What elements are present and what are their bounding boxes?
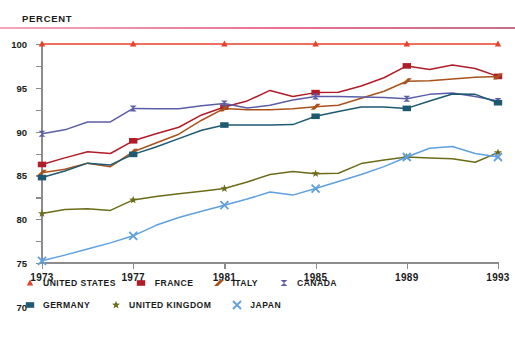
legend-label: UNITED KINGDOM xyxy=(129,300,211,310)
legend-label: GERMANY xyxy=(43,300,90,310)
y-tick-label: 75 xyxy=(16,258,27,269)
legend-item-germany[interactable]: GERMANY xyxy=(22,299,90,311)
chart-legend: UNITED STATESFRANCEITALYCANADA GERMANYUN… xyxy=(22,272,492,316)
legend-label: CANADA xyxy=(297,278,337,288)
plot-area: 50556065707580859095100 1973197719811985… xyxy=(42,44,498,263)
x-tick-mark xyxy=(133,263,134,269)
cross-marker-icon xyxy=(229,299,244,311)
legend-label: JAPAN xyxy=(250,300,281,310)
x-tick-mark xyxy=(498,263,499,269)
x-tick-mark xyxy=(42,263,43,269)
series-lines xyxy=(42,44,498,263)
series-united-states xyxy=(39,41,501,47)
star-marker-icon xyxy=(108,299,123,311)
legend-item-united-kingdom[interactable]: UNITED KINGDOM xyxy=(108,299,211,311)
arrow-marker-icon xyxy=(211,277,226,289)
chart-page: PERCENT 50556065707580859095100 19731977… xyxy=(0,0,515,341)
bowtie-marker-icon xyxy=(276,277,291,289)
legend-row-primary: UNITED STATESFRANCEITALYCANADA xyxy=(22,272,492,294)
axis-title-percent: PERCENT xyxy=(22,13,72,24)
x-tick-mark xyxy=(224,263,225,269)
legend-row-secondary: GERMANYUNITED KINGDOMJAPAN xyxy=(22,294,492,316)
x-tick-mark xyxy=(316,263,317,269)
legend-item-canada[interactable]: CANADA xyxy=(276,277,337,289)
y-tick-label: 100 xyxy=(11,39,27,50)
y-tick-label: 95 xyxy=(16,82,27,93)
top-divider-rule xyxy=(0,27,515,29)
series-united-kingdom xyxy=(38,148,502,216)
series-france xyxy=(38,63,502,167)
series-germany xyxy=(38,94,502,180)
y-tick-label: 85 xyxy=(16,170,27,181)
square-marker-icon xyxy=(22,299,37,311)
x-tick-mark xyxy=(407,263,408,269)
legend-item-japan[interactable]: JAPAN xyxy=(229,299,281,311)
legend-label: UNITED STATES xyxy=(43,278,116,288)
legend-label: FRANCE xyxy=(155,278,194,288)
legend-label: ITALY xyxy=(232,278,258,288)
triangle-marker-icon xyxy=(22,277,37,289)
legend-item-united-states[interactable]: UNITED STATES xyxy=(22,277,116,289)
y-tick-label: 80 xyxy=(16,214,27,225)
legend-item-france[interactable]: FRANCE xyxy=(134,277,194,289)
bottom-divider-rule xyxy=(18,328,496,330)
legend-item-italy[interactable]: ITALY xyxy=(211,277,258,289)
square-marker-icon xyxy=(134,277,149,289)
y-tick-label: 90 xyxy=(16,126,27,137)
